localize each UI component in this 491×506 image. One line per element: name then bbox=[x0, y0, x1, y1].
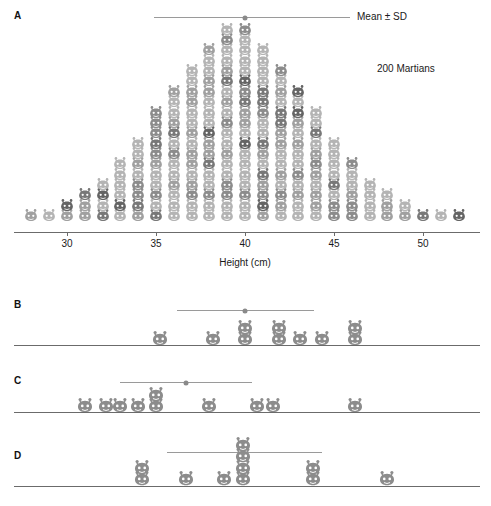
martian-icon bbox=[131, 136, 146, 149]
panel-d-axis bbox=[14, 486, 480, 487]
axis-tick-label-50: 50 bbox=[403, 238, 443, 249]
martian-icon bbox=[344, 157, 359, 170]
martian-icon bbox=[150, 330, 168, 346]
martian-icon bbox=[77, 188, 92, 201]
panel-a-errorbar-mean-dot bbox=[243, 15, 248, 20]
martian-icon bbox=[346, 319, 364, 335]
martian-icon bbox=[147, 386, 165, 402]
panel-b-errorbar-mean-dot bbox=[243, 308, 248, 313]
martian-icon bbox=[234, 436, 252, 452]
panel-letter-a: A bbox=[14, 10, 21, 21]
martian-icon bbox=[42, 208, 57, 221]
figure-canvas: AMean ± SD200 Martians3035404550Height (… bbox=[0, 0, 491, 506]
axis-tick-label-35: 35 bbox=[136, 238, 176, 249]
martian-icon bbox=[255, 43, 270, 56]
martian-icon bbox=[236, 319, 254, 335]
panel-letter-b: B bbox=[14, 299, 21, 310]
martian-icon bbox=[362, 177, 377, 190]
martian-icon bbox=[214, 470, 232, 486]
martian-icon bbox=[166, 84, 181, 97]
martian-icon bbox=[59, 198, 74, 211]
axis-tick-30 bbox=[67, 232, 68, 236]
martian-icon bbox=[326, 136, 341, 149]
martian-icon bbox=[303, 459, 321, 475]
martian-icon bbox=[433, 208, 448, 221]
martian-icon bbox=[346, 397, 364, 413]
martian-icon bbox=[309, 105, 324, 118]
panel-a-errorbar-line bbox=[154, 17, 350, 18]
martian-icon bbox=[237, 22, 252, 35]
panel-c-axis bbox=[14, 412, 480, 413]
martian-icon bbox=[95, 177, 110, 190]
axis-title-height: Height (cm) bbox=[165, 257, 325, 268]
martian-icon bbox=[177, 470, 195, 486]
martian-icon bbox=[148, 105, 163, 118]
martian-icon bbox=[220, 22, 235, 35]
panel-b-axis bbox=[14, 345, 480, 346]
martian-icon bbox=[415, 208, 430, 221]
axis-tick-50 bbox=[423, 232, 424, 236]
axis-tick-label-45: 45 bbox=[314, 238, 354, 249]
panel-letter-d: D bbox=[14, 450, 21, 461]
panel-letter-c: C bbox=[14, 375, 21, 386]
martian-icon bbox=[184, 63, 199, 76]
axis-tick-40 bbox=[245, 232, 246, 236]
martian-icon bbox=[312, 330, 330, 346]
axis-tick-35 bbox=[156, 232, 157, 236]
sample-size-label: 200 Martians bbox=[377, 63, 435, 74]
martian-icon bbox=[398, 198, 413, 211]
martian-icon bbox=[113, 157, 128, 170]
martian-icon bbox=[291, 84, 306, 97]
martian-icon bbox=[202, 43, 217, 56]
martian-icon bbox=[378, 470, 396, 486]
axis-tick-label-30: 30 bbox=[47, 238, 87, 249]
martian-icon bbox=[129, 397, 147, 413]
panel-c-errorbar-mean-dot bbox=[184, 380, 189, 385]
martian-icon bbox=[273, 63, 288, 76]
axis-tick-45 bbox=[334, 232, 335, 236]
martian-icon bbox=[380, 188, 395, 201]
martian-icon bbox=[451, 208, 466, 221]
martian-icon bbox=[133, 459, 151, 475]
martian-icon bbox=[76, 397, 94, 413]
martian-icon bbox=[24, 208, 39, 221]
martian-icon bbox=[270, 319, 288, 335]
martian-icon bbox=[204, 330, 222, 346]
martian-icon bbox=[200, 397, 218, 413]
mean-sd-label: Mean ± SD bbox=[357, 11, 407, 22]
martian-icon bbox=[291, 330, 309, 346]
martian-icon bbox=[264, 397, 282, 413]
martian-icon bbox=[111, 397, 129, 413]
axis-tick-label-40: 40 bbox=[225, 238, 265, 249]
panel-a-axis bbox=[14, 232, 480, 233]
